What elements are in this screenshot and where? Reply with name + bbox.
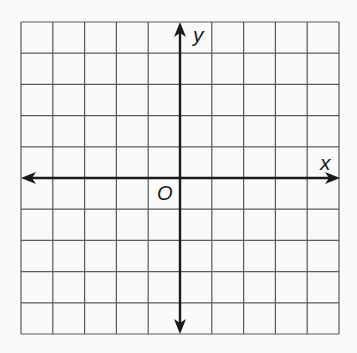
origin-label: O [157, 183, 173, 203]
x-axis-label: x [320, 152, 331, 173]
y-axis-label: y [193, 24, 204, 45]
coordinate-plane [0, 0, 357, 353]
